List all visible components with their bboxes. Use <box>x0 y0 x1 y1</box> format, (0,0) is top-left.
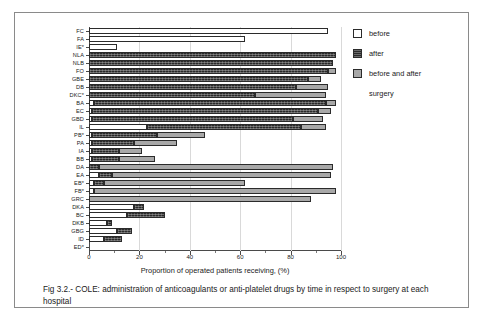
bar-row: NLA <box>89 52 341 57</box>
bar-segment-after <box>89 52 336 57</box>
bar-segment-before-and-after <box>104 180 245 185</box>
y-tick-label: ID <box>78 236 84 242</box>
bar-row: FA <box>89 36 341 41</box>
bar-segment-before <box>89 220 107 225</box>
figure-caption: Fig 3.2.- COLE: administration of antico… <box>43 284 443 307</box>
legend-swatch-before-icon <box>353 29 362 38</box>
bar-segment-after <box>94 100 326 105</box>
bar-segment-after <box>89 164 99 169</box>
bar-segment-before-and-after <box>255 92 326 97</box>
bar-row: ID <box>89 236 341 241</box>
bar-row: GBD <box>89 116 341 121</box>
y-tick-label: DA <box>76 164 84 170</box>
bar-segment-before-and-after <box>119 148 142 153</box>
bar-segment-after <box>104 236 122 241</box>
bar-segment-after <box>134 204 144 209</box>
bar-row: EB* <box>89 180 341 185</box>
legend-footnote: surgery <box>369 89 465 98</box>
bar-segment-before <box>89 124 147 129</box>
bar-segment-before-and-after <box>296 84 329 89</box>
y-tick-label: PB* <box>74 132 84 138</box>
x-minor-tick <box>165 251 166 253</box>
bar-segment-after <box>89 84 296 89</box>
bar-row: GBE <box>89 76 341 81</box>
y-tick-label: DB <box>76 84 84 90</box>
bar-segment-before-and-after <box>112 172 331 177</box>
bar-row: GBG <box>89 228 341 233</box>
bar-segment-before-and-after <box>89 196 311 201</box>
bar-segment-before-and-after <box>157 132 205 137</box>
bar-segment-after <box>89 60 333 65</box>
y-tick <box>86 247 89 248</box>
x-tick-label: 100 <box>336 254 346 260</box>
x-minor-tick <box>265 251 266 253</box>
y-tick-label: NLB <box>73 60 84 66</box>
bar-row: DA <box>89 164 341 169</box>
bar-row: BC <box>89 212 341 217</box>
x-tick-label: 0 <box>87 254 90 260</box>
bar-segment-after <box>92 148 120 153</box>
bar-segment-after <box>94 180 104 185</box>
y-tick-label: NLA <box>73 52 84 58</box>
bar-segment-before-and-after <box>318 108 331 113</box>
legend-label-before-and-after: before and after <box>369 69 421 78</box>
bar-segment-after <box>92 108 319 113</box>
bar-row: DKC* <box>89 92 341 97</box>
bar-segment-after <box>92 140 135 145</box>
bar-segment-before-and-after <box>328 68 336 73</box>
figure-container: FCFAIE*NLANLBFOGBEDBDKC*BAECGBDILPB*PAIA… <box>14 12 469 308</box>
x-minor-tick <box>215 251 216 253</box>
legend-swatch-before-and-after-icon <box>353 69 362 78</box>
bar-segment-after <box>89 68 328 73</box>
bar-row: IE* <box>89 44 341 49</box>
bar-row: EA <box>89 172 341 177</box>
bar-segment-before-and-after <box>99 164 333 169</box>
bar-row: DKA <box>89 204 341 209</box>
bar-segment-after <box>92 116 294 121</box>
bar-row: IA <box>89 148 341 153</box>
legend-swatch-after-icon <box>353 49 362 58</box>
y-tick-label: DKC* <box>70 92 84 98</box>
bar-segment-before <box>89 28 328 33</box>
bar-row: PB* <box>89 132 341 137</box>
x-minor-tick <box>114 251 115 253</box>
y-tick-label: EA <box>76 172 84 178</box>
y-tick-label: GRC <box>71 196 84 202</box>
bar-segment-before <box>89 44 117 49</box>
y-tick-label: IA <box>79 148 85 154</box>
bar-row: DB <box>89 84 341 89</box>
bar-segment-before-and-after <box>301 124 326 129</box>
bar-segment-before <box>89 228 117 233</box>
bar-segment-after <box>147 124 301 129</box>
y-tick-label: ED* <box>74 244 84 250</box>
gridline <box>341 27 342 251</box>
y-tick-label: GBE <box>72 76 84 82</box>
bar-segment-after <box>92 156 120 161</box>
y-tick-label: EC <box>76 108 84 114</box>
bar-row: IL <box>89 124 341 129</box>
y-tick-label: FC <box>76 28 84 34</box>
bar-segment-before <box>89 204 134 209</box>
bar-segment-before-and-after <box>293 116 323 121</box>
bar-row: DKB <box>89 220 341 225</box>
bar-segment-before-and-after <box>134 140 177 145</box>
x-minor-tick <box>316 251 317 253</box>
legend-item-after: after <box>353 49 465 58</box>
x-tick-label: 60 <box>237 254 244 260</box>
bar-row: BB <box>89 156 341 161</box>
x-tick-label: 20 <box>136 254 143 260</box>
x-tick-label: 80 <box>287 254 294 260</box>
x-tick-label: 40 <box>186 254 193 260</box>
bar-row: PA <box>89 140 341 145</box>
bar-segment-after <box>89 92 255 97</box>
bar-row: FO <box>89 68 341 73</box>
bar-row: BA <box>89 100 341 105</box>
bar-segment-before-and-after <box>326 100 336 105</box>
bar-segment-after <box>107 220 112 225</box>
x-axis-label: Proportion of operated patients receivin… <box>89 266 341 275</box>
y-tick-label: GBD <box>72 116 84 122</box>
y-tick-label: BC <box>76 212 84 218</box>
y-tick-label: EB* <box>74 180 84 186</box>
bar-segment-before-and-after <box>94 188 336 193</box>
y-tick-label: DKA <box>72 204 84 210</box>
